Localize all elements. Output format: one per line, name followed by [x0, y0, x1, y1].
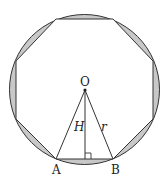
octagon-circle-diagram: O A B H r	[0, 0, 167, 183]
label-B: B	[111, 163, 120, 177]
label-A: A	[51, 163, 61, 177]
label-H: H	[73, 120, 85, 134]
label-O: O	[80, 75, 90, 89]
